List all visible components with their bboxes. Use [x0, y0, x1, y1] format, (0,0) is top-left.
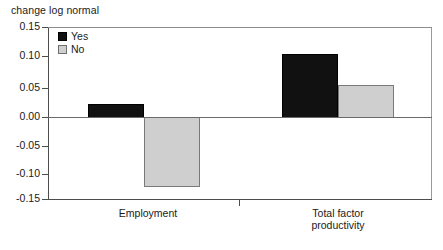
y-tick-mark-6	[42, 199, 48, 200]
y-tick-label-5: -0.10	[0, 168, 40, 179]
y-tick-mark-1	[42, 56, 48, 57]
bar-employment-yes	[88, 104, 144, 118]
y-tick-mark-0	[42, 27, 48, 28]
legend-item-yes: Yes	[58, 31, 88, 42]
y-tick-label-2: 0.05	[0, 82, 40, 93]
bar-employment-no	[144, 117, 200, 187]
y-tick-mark-4	[42, 146, 48, 147]
legend-swatch-gray-icon	[58, 45, 67, 54]
category-label-employment-line1: Employment	[68, 207, 228, 219]
bar-tfp-no	[338, 85, 394, 118]
category-separator-tick	[239, 199, 240, 206]
legend: Yes No	[58, 31, 88, 55]
legend-label-yes: Yes	[71, 31, 88, 42]
category-label-tfp-line1: Total factor	[258, 207, 418, 219]
y-tick-mark-5	[42, 174, 48, 175]
zero-line	[48, 117, 432, 118]
y-tick-label-6: -0.15	[0, 193, 40, 204]
y-tick-label-1: 0.10	[0, 50, 40, 61]
x-axis-line	[48, 199, 432, 200]
legend-label-no: No	[71, 44, 84, 55]
y-tick-mark-2	[42, 88, 48, 89]
y-axis-title: change log normal	[11, 4, 99, 16]
bar-tfp-yes	[282, 54, 338, 118]
y-tick-label-3: 0.00	[0, 111, 40, 122]
legend-swatch-black-icon	[58, 32, 67, 41]
plot-frame-top	[48, 27, 432, 28]
y-tick-label-0: 0.15	[0, 21, 40, 32]
legend-item-no: No	[58, 44, 88, 55]
category-label-tfp: Total factor productivity	[258, 207, 418, 231]
category-label-employment: Employment	[68, 207, 228, 219]
category-label-tfp-line2: productivity	[258, 219, 418, 231]
y-tick-label-4: -0.05	[0, 140, 40, 151]
bar-chart: change log normal 0.15 0.10 0.05 0.00 -0…	[0, 0, 443, 250]
